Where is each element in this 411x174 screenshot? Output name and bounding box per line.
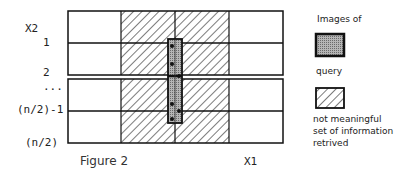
query-point (177, 109, 181, 113)
legend-hatch-label-line3: retrived (313, 137, 348, 149)
query-point (170, 44, 174, 48)
row-label-2: 2 (43, 67, 50, 78)
legend-hatch-swatch (316, 88, 344, 108)
query-point (170, 102, 174, 106)
query-image-column (168, 39, 182, 123)
query-point (170, 117, 174, 121)
row-label-ellipsis: ... (43, 81, 63, 92)
y-axis-label: X2 (25, 23, 38, 34)
legend-query-swatch (316, 34, 344, 56)
legend-hatch-label-line1: not meaningful (313, 113, 381, 125)
query-point (170, 62, 174, 66)
row-label-n-half: (n/2) (25, 137, 58, 148)
row-label-n-half-minus-1: (n/2)-1 (17, 104, 63, 115)
figure-caption: Figure 2 (80, 154, 128, 168)
legend-query-label: query (316, 65, 342, 77)
legend-query-heading: Images of (317, 13, 361, 25)
x-axis-label: X1 (244, 156, 257, 167)
row-label-1: 1 (43, 37, 50, 48)
query-point (177, 74, 181, 78)
legend-hatch-label-line2: set of information (313, 125, 393, 137)
